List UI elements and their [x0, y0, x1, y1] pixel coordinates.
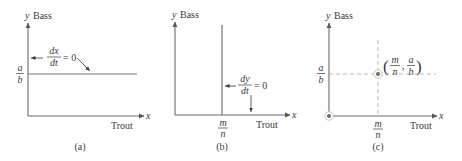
- x-axis-var: x: [438, 110, 444, 121]
- svg-text:n: n: [393, 66, 398, 77]
- dx-dt-zero-label: dx dt = 0: [31, 45, 90, 71]
- svg-text:a: a: [18, 62, 23, 73]
- y-axis-var: y: [24, 10, 30, 21]
- svg-text:a: a: [409, 54, 414, 65]
- y-axis-var: y: [325, 10, 331, 21]
- panel-c: y Bass x Trout a b m n (: [317, 10, 444, 153]
- panel-b: y Bass x Trout m n dy dt = 0 (b): [171, 9, 297, 153]
- svg-text:b: b: [319, 74, 324, 85]
- svg-text:m: m: [219, 117, 226, 128]
- svg-text:m: m: [391, 54, 398, 65]
- x-axis-var: x: [291, 109, 297, 120]
- x-axis-label: Trout: [410, 120, 432, 131]
- x-tick-m-over-n: m n: [218, 117, 228, 139]
- equilibrium-point-interior: [374, 70, 382, 78]
- y-axis-label: Bass: [180, 9, 199, 20]
- svg-text:b: b: [409, 66, 414, 77]
- svg-text:): ): [416, 57, 422, 76]
- x-tick-m-over-n: m n: [373, 118, 383, 140]
- svg-text:a: a: [319, 62, 324, 73]
- svg-text:= 0: = 0: [63, 52, 76, 63]
- dy-dt-zero-label: dy dt = 0: [225, 73, 267, 112]
- x-axis-var: x: [145, 110, 151, 121]
- y-axis-var: y: [171, 9, 177, 20]
- y-tick-a-over-b: a b: [16, 62, 24, 85]
- phase-plane-figure: y Bass x Trout a b dx dt = 0 (a) y Bass …: [0, 0, 462, 161]
- panel-caption: (a): [74, 141, 85, 153]
- svg-text:= 0: = 0: [254, 80, 267, 91]
- x-axis-label: Trout: [111, 120, 133, 131]
- svg-text:dt: dt: [50, 57, 58, 68]
- y-axis-label: Bass: [334, 10, 353, 21]
- svg-text:dy: dy: [240, 73, 250, 84]
- svg-text:(: (: [383, 57, 389, 76]
- y-axis-label: Bass: [33, 10, 52, 21]
- panel-caption: (c): [372, 141, 383, 153]
- panel-a: y Bass x Trout a b dx dt = 0 (a): [16, 10, 151, 153]
- svg-text:b: b: [18, 74, 23, 85]
- y-tick-a-over-b: a b: [317, 62, 325, 85]
- equilibrium-point-origin: [325, 112, 333, 120]
- arrow-diagonal-icon: [77, 58, 90, 71]
- panel-caption: (b): [216, 141, 228, 153]
- svg-text:n: n: [221, 128, 226, 139]
- svg-text:dx: dx: [49, 45, 59, 56]
- svg-text:,: ,: [402, 60, 405, 71]
- x-axis-label: Trout: [256, 119, 278, 130]
- svg-text:dt: dt: [241, 85, 249, 96]
- svg-text:n: n: [376, 129, 381, 140]
- svg-text:m: m: [374, 118, 381, 129]
